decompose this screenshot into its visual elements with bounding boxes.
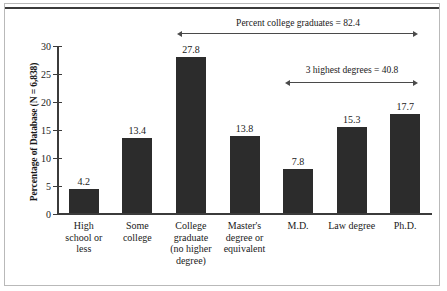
y-tick-mark: [53, 74, 62, 75]
y-tick-label: 30: [41, 41, 51, 52]
x-category-label-line: degree): [170, 255, 211, 267]
bar: [337, 127, 367, 213]
bar-value-label: 7.8: [292, 156, 305, 167]
x-category-label-line: Some: [123, 220, 152, 232]
y-tick-label: 15: [41, 125, 51, 136]
x-category-label-line: school or: [65, 232, 102, 244]
x-category-label: Somecollege: [123, 220, 152, 243]
annotation-college-graduates-label: Percent college graduates = 82.4: [236, 18, 360, 28]
x-category-label: Law degree: [328, 220, 375, 232]
y-tick-mark: [53, 102, 62, 103]
x-category-label: Master'sdegree orequivalent: [224, 220, 266, 255]
x-axis-line: [57, 213, 432, 215]
x-category-label-line: graduate: [170, 232, 211, 244]
x-category-label-line: degree or: [224, 232, 266, 244]
bar-value-label: 15.3: [343, 114, 361, 125]
arrow-line: [180, 33, 415, 34]
x-category-label-line: college: [123, 232, 152, 244]
y-tick-mark: [53, 186, 62, 187]
x-category-label-line: Master's: [224, 220, 266, 232]
bar-value-label: 4.2: [78, 176, 91, 187]
bar-value-label: 17.7: [396, 101, 414, 112]
x-category-label: Ph.D.: [394, 220, 417, 232]
y-tick-mark: [53, 158, 62, 159]
y-tick-label: 20: [41, 97, 51, 108]
y-tick-label: 5: [46, 181, 51, 192]
plot-area: 051015202530 4.213.427.813.87.815.317.7: [57, 46, 432, 214]
bar-value-label: 13.8: [236, 123, 254, 134]
x-category-label-line: less: [65, 243, 102, 255]
bar-value-label: 13.4: [129, 125, 147, 136]
arrow-head-right-icon: [413, 31, 418, 37]
y-tick-mark: [53, 46, 62, 47]
annotation-college-graduates-arrow: [177, 30, 418, 37]
x-category-label-line: M.D.: [288, 220, 309, 232]
x-category-label-line: Ph.D.: [394, 220, 417, 232]
x-category-label-line: College: [170, 220, 211, 232]
bar: [283, 169, 313, 213]
bar: [230, 136, 260, 213]
y-axis-title: Percentage of Database (N = 6,838): [29, 47, 39, 217]
bar: [69, 189, 99, 213]
y-tick-mark: [53, 214, 62, 215]
y-tick-mark: [53, 130, 62, 131]
x-category-label: Highschool orless: [65, 220, 102, 255]
x-category-label-line: Law degree: [328, 220, 375, 232]
bar-chart-figure: Percentage of Database (N = 6,838) Perce…: [0, 0, 447, 291]
figure-top-rule: [5, 7, 439, 9]
x-category-label: Collegegraduate(no higherdegree): [170, 220, 211, 266]
bar: [390, 114, 420, 213]
y-tick-label: 0: [46, 209, 51, 220]
bar-value-label: 27.8: [182, 44, 200, 55]
x-category-label-line: High: [65, 220, 102, 232]
y-tick-label: 25: [41, 69, 51, 80]
bar: [176, 57, 206, 213]
bar: [122, 138, 152, 213]
x-category-label: M.D.: [288, 220, 309, 232]
x-category-label-line: equivalent: [224, 243, 266, 255]
x-category-label-line: (no higher: [170, 243, 211, 255]
y-tick-label: 10: [41, 153, 51, 164]
